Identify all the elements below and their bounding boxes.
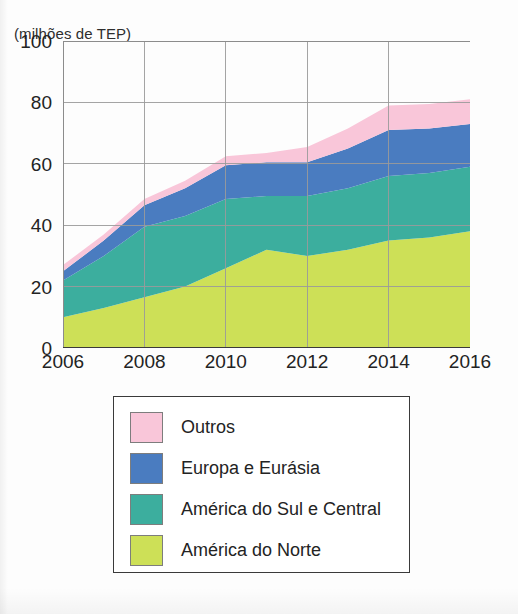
legend-item-label: Europa e Eurásia xyxy=(181,458,320,479)
legend-item: Outros xyxy=(114,407,409,448)
legend-color-swatch xyxy=(130,494,163,525)
chart-page: (milhões de TEP) 020406080100 2006200820… xyxy=(0,0,518,614)
page-edge-shading-bottom xyxy=(0,588,518,614)
legend-item-label: Outros xyxy=(181,417,235,438)
x-axis: 200620082010201220142016 xyxy=(0,352,518,382)
y-axis-tick-label: 40 xyxy=(31,216,52,235)
x-axis-tick-label: 2008 xyxy=(123,352,165,371)
x-axis-tick-label: 2006 xyxy=(42,352,84,371)
legend-item-label: América do Sul e Central xyxy=(181,499,381,520)
x-axis-tick-label: 2012 xyxy=(286,352,328,371)
y-axis-tick-label: 20 xyxy=(31,277,52,296)
legend-color-swatch xyxy=(130,453,163,484)
y-axis: 020406080100 xyxy=(0,41,58,348)
y-axis-tick-label: 60 xyxy=(31,154,52,173)
legend-color-swatch xyxy=(130,412,163,443)
x-axis-tick-label: 2016 xyxy=(449,352,491,371)
legend-item: Europa e Eurásia xyxy=(114,448,409,489)
chart-legend: OutrosEuropa e EurásiaAmérica do Sul e C… xyxy=(113,396,410,573)
y-axis-tick-label: 100 xyxy=(20,32,52,51)
legend-color-swatch xyxy=(130,535,163,566)
x-axis-tick-label: 2010 xyxy=(205,352,247,371)
legend-item: América do Sul e Central xyxy=(114,489,409,530)
stacked-area-chart xyxy=(63,41,470,348)
plot-area xyxy=(63,41,470,348)
y-axis-tick-label: 80 xyxy=(31,93,52,112)
x-axis-tick-label: 2014 xyxy=(367,352,409,371)
legend-item-label: América do Norte xyxy=(181,540,321,561)
legend-item: América do Norte xyxy=(114,530,409,571)
